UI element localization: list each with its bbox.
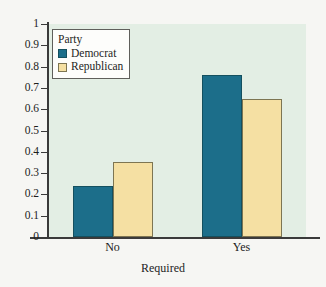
y-axis-tick [41,67,48,68]
y-axis-tick-label: 0.8 [1,61,39,73]
y-axis-tick-label: 0.2 [1,189,39,201]
y-axis-tick [41,45,48,46]
y-axis-tick [41,152,48,153]
y-axis-tick [41,88,48,89]
x-axis-title: Required [0,261,326,276]
y-axis-tick-label: 0.9 [1,40,39,52]
bar-chart-figure: 00.10.20.30.40.50.60.70.80.91 NoYes Requ… [0,0,326,287]
legend-item-label: Democrat [71,47,116,60]
y-axis-tick [41,237,48,238]
x-axis-tick-label: No [105,241,120,254]
y-axis-tick-label: 0.5 [1,125,39,137]
y-axis-tick [41,131,48,132]
y-axis-tick-label: 0.7 [1,82,39,94]
legend-item-label: Republican [71,60,123,73]
y-axis-tick-label: 0.4 [1,146,39,158]
legend-item-republican[interactable]: Republican [58,60,123,73]
y-axis-tick-label: 0 [1,231,39,243]
legend-item-democrat[interactable]: Democrat [58,47,123,60]
bar-yes-democrat[interactable] [202,75,242,237]
x-axis-line [30,237,320,239]
legend: Party DemocratRepublican [52,29,130,79]
y-axis-tick-label: 0.1 [1,210,39,222]
y-axis-tick-label: 0.3 [1,167,39,179]
y-axis-tick [41,24,48,25]
legend-title: Party [58,33,123,46]
bar-no-republican[interactable] [113,162,153,237]
y-axis-tick-label: 0.6 [1,103,39,115]
bar-no-democrat[interactable] [73,186,113,237]
y-axis-tick [41,109,48,110]
x-axis-tick-label: Yes [233,241,250,254]
y-axis-tick-label: 1 [1,18,39,30]
legend-swatch-icon [58,49,67,58]
legend-entries: DemocratRepublican [58,47,123,73]
y-axis-tick [41,173,48,174]
legend-swatch-icon [58,63,67,72]
bar-yes-republican[interactable] [242,99,282,237]
y-axis-tick [41,216,48,217]
y-axis-tick [41,194,48,195]
